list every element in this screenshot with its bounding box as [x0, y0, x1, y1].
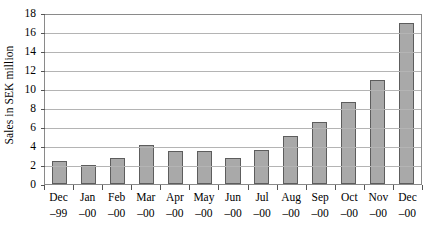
x-axis-tick-label: Jan–00	[73, 190, 102, 230]
y-axis-tick-mark	[41, 166, 45, 167]
bar-slot	[190, 15, 219, 184]
x-axis-label-year: –00	[218, 206, 247, 222]
bar-slot	[363, 15, 392, 184]
x-axis-tick-label: Mar–00	[131, 190, 160, 230]
x-axis-tick-label: Feb–00	[102, 190, 131, 230]
x-axis-tick-label: May–00	[189, 190, 218, 230]
y-axis-tick-mark	[41, 147, 45, 148]
y-axis-tick-label: 18	[25, 8, 37, 20]
y-axis-tick-mark	[41, 52, 45, 53]
x-axis-tick-label: Jun–00	[218, 190, 247, 230]
x-axis-label-year: –00	[160, 206, 189, 222]
y-axis-tick-label: 6	[30, 122, 36, 134]
x-axis-label-year: –00	[393, 206, 422, 222]
bar-slot	[74, 15, 103, 184]
y-axis-tick-label: 10	[25, 84, 37, 96]
y-axis-tick-mark	[41, 33, 45, 34]
bar-chart: Sales in SEK million 181614121086420 Dec…	[0, 0, 433, 233]
gridline	[45, 128, 421, 129]
bar[interactable]	[197, 151, 212, 184]
bars-layer	[45, 15, 421, 184]
bar-slot	[276, 15, 305, 184]
x-axis-tick-label: Oct–00	[335, 190, 364, 230]
y-axis-tick-mark	[41, 14, 45, 15]
bar[interactable]	[110, 158, 125, 184]
bar-slot	[219, 15, 248, 184]
x-axis-tick-label: Apr–00	[160, 190, 189, 230]
x-axis-label-month: Nov	[364, 190, 393, 206]
x-axis-label-month: May	[189, 190, 218, 206]
y-axis-tick-mark	[41, 128, 45, 129]
x-axis-label-year: –00	[102, 206, 131, 222]
x-axis-label-year: –00	[73, 206, 102, 222]
x-axis-label-year: –00	[131, 206, 160, 222]
bar[interactable]	[370, 80, 385, 185]
x-axis-tick-labels: Dec–99Jan–00Feb–00Mar–00Apr–00May–00Jun–…	[44, 190, 422, 230]
x-axis-label-year: –00	[248, 206, 277, 222]
x-axis-label-month: Jun	[218, 190, 247, 206]
gridline	[45, 147, 421, 148]
y-axis-title: Sales in SEK million	[0, 0, 18, 190]
bar-slot	[305, 15, 334, 184]
y-axis-tick-label: 4	[30, 141, 36, 153]
x-axis-label-month: Dec	[393, 190, 422, 206]
bar[interactable]	[52, 161, 67, 184]
x-axis-tick-label: Jul–00	[248, 190, 277, 230]
x-axis-label-year: –00	[335, 206, 364, 222]
bar[interactable]	[81, 165, 96, 184]
x-axis-label-year: –00	[277, 206, 306, 222]
x-axis-tick-label: Aug–00	[277, 190, 306, 230]
bar-slot	[45, 15, 74, 184]
x-axis-label-month: Jul	[248, 190, 277, 206]
y-axis-tick-mark	[41, 109, 45, 110]
bar[interactable]	[139, 145, 154, 184]
bar[interactable]	[341, 102, 356, 184]
bar-slot	[334, 15, 363, 184]
y-axis-title-text: Sales in SEK million	[3, 46, 15, 145]
x-axis-label-month: Apr	[160, 190, 189, 206]
x-axis-tick-label: Dec–00	[393, 190, 422, 230]
y-axis-tick-label: 8	[30, 103, 36, 115]
y-axis-tick-label: 12	[25, 65, 37, 77]
bar-slot	[132, 15, 161, 184]
x-axis-label-month: Dec	[44, 190, 73, 206]
x-axis-label-month: Feb	[102, 190, 131, 206]
bar[interactable]	[399, 23, 414, 184]
y-axis-tick-mark	[41, 71, 45, 72]
x-axis-tick-label: Nov–00	[364, 190, 393, 230]
bar-slot	[392, 15, 421, 184]
gridline	[45, 33, 421, 34]
x-axis-label-month: Sep	[306, 190, 335, 206]
x-axis-label-month: Oct	[335, 190, 364, 206]
x-axis-tick-mark	[422, 185, 423, 190]
bar-slot	[247, 15, 276, 184]
plot-area	[44, 14, 422, 185]
x-axis-label-year: –00	[189, 206, 218, 222]
gridline	[45, 90, 421, 91]
y-axis-tick-label: 2	[30, 160, 36, 172]
bar[interactable]	[312, 122, 327, 184]
bar-slot	[103, 15, 132, 184]
x-axis-label-month: Aug	[277, 190, 306, 206]
bar[interactable]	[168, 151, 183, 184]
y-axis-tick-label: 16	[25, 27, 37, 39]
y-axis-tick-mark	[41, 90, 45, 91]
x-axis-label-month: Jan	[73, 190, 102, 206]
x-axis-label-year: –00	[364, 206, 393, 222]
x-axis-tick-label: Sep–00	[306, 190, 335, 230]
x-axis-label-year: –99	[44, 206, 73, 222]
gridline	[45, 109, 421, 110]
bar-slot	[161, 15, 190, 184]
y-axis-tick-labels: 181614121086420	[18, 14, 40, 185]
gridline	[45, 52, 421, 53]
x-axis-label-month: Mar	[131, 190, 160, 206]
x-axis-tick-label: Dec–99	[44, 190, 73, 230]
y-axis-tick-label: 14	[25, 46, 37, 58]
bar[interactable]	[225, 158, 240, 184]
gridline	[45, 71, 421, 72]
y-axis-tick-label: 0	[30, 179, 36, 191]
bar[interactable]	[283, 136, 298, 184]
gridline	[45, 166, 421, 167]
x-axis-label-year: –00	[306, 206, 335, 222]
